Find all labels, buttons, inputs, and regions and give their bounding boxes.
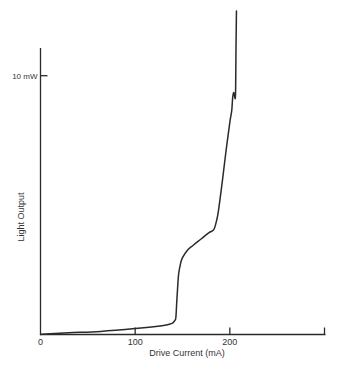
plot-series <box>41 11 237 335</box>
y-ticks: 10 mW <box>12 72 47 81</box>
x-tick-label: 200 <box>222 337 237 347</box>
y-axis-label: Light Output <box>16 192 26 242</box>
x-tick-label: 0 <box>38 337 43 347</box>
x-ticks: 0100200 <box>38 328 325 348</box>
light-output-curve <box>41 11 237 335</box>
x-axis-label: Drive Current (mA) <box>149 348 225 358</box>
y-tick-label: 10 mW <box>12 72 38 81</box>
light-output-chart: 10 mW Light Output 0100200 Drive Current… <box>0 0 338 365</box>
y-axis: 10 mW Light Output <box>12 48 47 335</box>
x-tick-label: 100 <box>128 337 143 347</box>
